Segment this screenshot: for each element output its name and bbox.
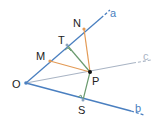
label-N: N xyxy=(73,17,81,29)
point-M xyxy=(48,59,51,62)
label-M: M xyxy=(36,50,45,62)
point-O xyxy=(24,81,28,85)
point-T xyxy=(66,44,69,47)
label-T: T xyxy=(58,34,65,46)
segment-MP xyxy=(50,61,90,72)
ray-a-label: a xyxy=(110,7,117,19)
label-O: O xyxy=(12,78,21,90)
point-S xyxy=(82,99,85,102)
ray-a: a xyxy=(26,7,117,83)
label-S: S xyxy=(78,104,85,116)
ray-c-label: c xyxy=(143,50,149,62)
point-N xyxy=(82,27,85,30)
angle-bisector-diagram: a b c O N T M P S xyxy=(0,0,163,132)
ray-b-label: b xyxy=(135,102,141,114)
point-P xyxy=(88,70,92,74)
label-P: P xyxy=(92,75,99,87)
segment-SP xyxy=(83,72,90,100)
